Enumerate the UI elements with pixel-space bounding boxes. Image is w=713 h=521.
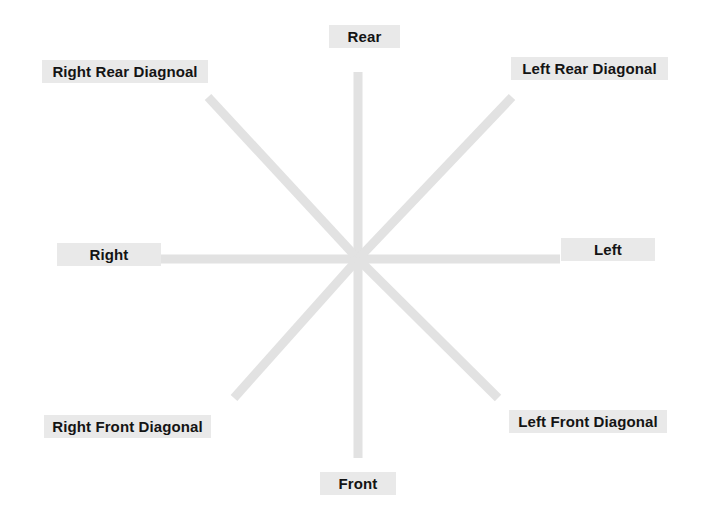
axis-line-front-left-diagonal [358, 259, 498, 398]
label-left-front-diagonal: Left Front Diagonal [509, 410, 667, 433]
diagram-canvas: Rear Right Rear Diagnoal Left Rear Diago… [0, 0, 713, 521]
label-right-front-diagonal: Right Front Diagonal [44, 415, 211, 438]
label-left-rear-diagonal: Left Rear Diagonal [511, 57, 668, 80]
axis-line-front-right-diagonal [234, 259, 358, 398]
label-front: Front [320, 472, 396, 495]
label-right: Right [57, 243, 161, 266]
label-rear: Rear [329, 25, 400, 48]
label-right-rear-diagonal: Right Rear Diagnoal [42, 60, 208, 83]
label-left: Left [561, 238, 655, 261]
axis-line-rear-right-diagonal [208, 97, 358, 259]
axis-line-rear-left-diagonal [358, 97, 512, 259]
